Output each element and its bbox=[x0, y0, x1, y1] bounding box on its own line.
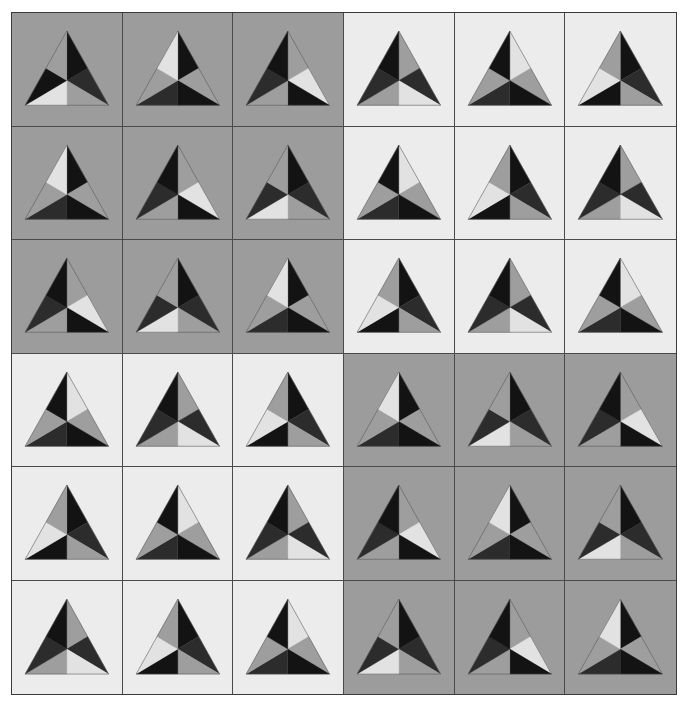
triangle-tile bbox=[455, 581, 566, 695]
triangle-tile bbox=[233, 127, 344, 241]
triangle-tile bbox=[344, 127, 455, 241]
triangle-pinwheel-icon bbox=[233, 240, 343, 353]
triangle-tile bbox=[565, 581, 676, 695]
triangle-pinwheel-icon bbox=[123, 240, 233, 353]
triangle-pinwheel-icon bbox=[344, 581, 454, 695]
triangle-tile bbox=[123, 240, 234, 354]
triangle-pinwheel-icon bbox=[344, 354, 454, 467]
triangle-tile bbox=[233, 467, 344, 581]
triangle-tile bbox=[455, 354, 566, 468]
triangle-pinwheel-icon bbox=[12, 13, 122, 126]
triangle-tile bbox=[344, 13, 455, 127]
triangle-pinwheel-icon bbox=[233, 13, 343, 126]
triangle-pinwheel-icon bbox=[123, 581, 233, 695]
triangle-tile bbox=[123, 581, 234, 695]
triangle-tile bbox=[123, 127, 234, 241]
triangle-pinwheel-icon bbox=[344, 127, 454, 240]
triangle-tile bbox=[565, 13, 676, 127]
triangle-pinwheel-icon bbox=[12, 467, 122, 580]
triangle-tile bbox=[233, 240, 344, 354]
triangle-pinwheel-icon bbox=[455, 354, 565, 467]
triangle-tile bbox=[12, 240, 123, 354]
triangle-pinwheel-icon bbox=[12, 240, 122, 353]
triangle-pinwheel-icon bbox=[233, 467, 343, 580]
triangle-tile bbox=[233, 13, 344, 127]
triangle-pinwheel-icon bbox=[344, 467, 454, 580]
triangle-tile bbox=[565, 127, 676, 241]
triangle-tile bbox=[344, 581, 455, 695]
triangle-tile bbox=[12, 13, 123, 127]
triangle-tile bbox=[233, 581, 344, 695]
triangle-pinwheel-icon bbox=[344, 13, 454, 126]
triangle-tile bbox=[455, 13, 566, 127]
triangle-pinwheel-icon bbox=[565, 581, 676, 695]
triangle-pinwheel-icon bbox=[455, 13, 565, 126]
triangle-tile bbox=[123, 13, 234, 127]
triangle-tile bbox=[565, 354, 676, 468]
triangle-pinwheel-icon bbox=[565, 127, 676, 240]
triangle-tile bbox=[233, 354, 344, 468]
triangle-tile bbox=[123, 354, 234, 468]
triangle-tile bbox=[565, 240, 676, 354]
triangle-pinwheel-icon bbox=[565, 467, 676, 580]
triangle-pinwheel-icon bbox=[123, 467, 233, 580]
triangle-pinwheel-icon bbox=[12, 354, 122, 467]
triangle-tile bbox=[455, 240, 566, 354]
triangle-tile bbox=[344, 354, 455, 468]
triangle-tile bbox=[123, 467, 234, 581]
triangle-pinwheel-icon bbox=[233, 354, 343, 467]
triangle-tile bbox=[12, 467, 123, 581]
triangle-pinwheel-icon bbox=[455, 127, 565, 240]
triangle-tile bbox=[12, 354, 123, 468]
triangle-pinwheel-icon bbox=[455, 467, 565, 580]
triangle-tile bbox=[12, 581, 123, 695]
triangle-pinwheel-icon bbox=[565, 240, 676, 353]
triangle-pinwheel-icon bbox=[455, 581, 565, 695]
triangle-pinwheel-icon bbox=[12, 581, 122, 695]
triangle-pinwheel-icon bbox=[233, 127, 343, 240]
triangle-pinwheel-icon bbox=[123, 13, 233, 126]
triangle-pinwheel-icon bbox=[565, 13, 676, 126]
triangle-pinwheel-icon bbox=[233, 581, 343, 695]
triangle-pinwheel-icon bbox=[455, 240, 565, 353]
triangle-tile bbox=[12, 127, 123, 241]
triangle-pinwheel-icon bbox=[12, 127, 122, 240]
triangle-tile bbox=[344, 240, 455, 354]
triangle-pinwheel-icon bbox=[123, 127, 233, 240]
triangle-pinwheel-icon bbox=[123, 354, 233, 467]
triangle-tile bbox=[344, 467, 455, 581]
triangle-tile bbox=[455, 467, 566, 581]
triangle-pinwheel-icon bbox=[344, 240, 454, 353]
triangle-tile bbox=[455, 127, 566, 241]
triangle-tile-grid bbox=[11, 12, 677, 695]
triangle-pinwheel-icon bbox=[565, 354, 676, 467]
triangle-tile bbox=[565, 467, 676, 581]
